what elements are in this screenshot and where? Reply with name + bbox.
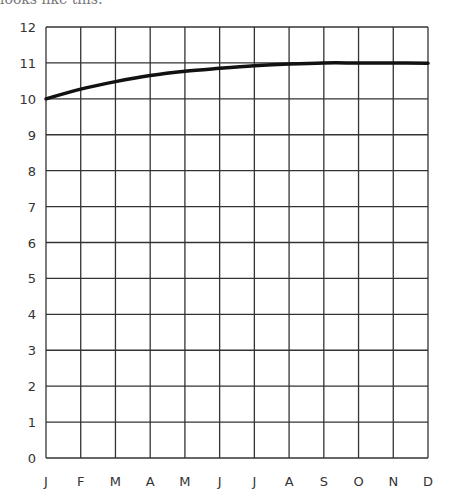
- x-tick-label: A: [146, 474, 155, 489]
- x-tick-label: J: [251, 474, 256, 489]
- x-tick-label: D: [423, 474, 433, 489]
- x-tick-label: M: [179, 474, 190, 489]
- y-axis-ticks: 0123456789101112: [19, 20, 36, 466]
- y-tick-label: 6: [28, 236, 36, 251]
- y-tick-label: 1: [28, 415, 36, 430]
- y-tick-label: 10: [19, 92, 36, 107]
- chart-grid: [46, 27, 428, 458]
- y-tick-label: 5: [28, 271, 36, 286]
- line-chart: 0123456789101112 JFMAMJJASOND: [0, 0, 456, 497]
- y-tick-label: 4: [28, 307, 36, 322]
- y-tick-label: 2: [28, 379, 36, 394]
- x-tick-label: A: [285, 474, 294, 489]
- x-tick-label: S: [320, 474, 328, 489]
- x-tick-label: J: [43, 474, 48, 489]
- x-tick-label: J: [217, 474, 222, 489]
- x-tick-label: N: [388, 474, 398, 489]
- x-tick-label: M: [110, 474, 121, 489]
- x-tick-label: O: [353, 474, 363, 489]
- y-tick-label: 12: [19, 20, 36, 35]
- y-tick-label: 0: [28, 451, 36, 466]
- data-line: [46, 63, 428, 99]
- y-tick-label: 3: [28, 343, 36, 358]
- x-axis-ticks: JFMAMJJASOND: [43, 474, 433, 489]
- x-tick-label: F: [77, 474, 84, 489]
- y-tick-label: 8: [28, 164, 36, 179]
- y-tick-label: 7: [28, 200, 36, 215]
- y-tick-label: 11: [19, 56, 36, 71]
- y-tick-label: 9: [28, 128, 36, 143]
